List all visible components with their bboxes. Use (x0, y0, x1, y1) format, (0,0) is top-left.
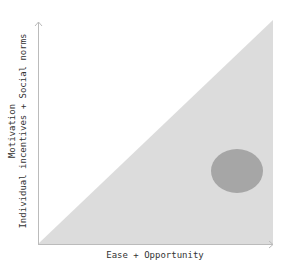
motivation-ease-diagram: Ease + Opportunity Motivation Individual… (0, 0, 288, 269)
y-axis-label: Motivation Individual incentives + Socia… (7, 21, 29, 241)
feasible-region-triangle (38, 20, 273, 244)
y-axis (35, 22, 42, 245)
y-axis-label-subtitle: Individual incentives + Social norms (18, 21, 29, 241)
position-marker (211, 149, 263, 193)
x-axis-label: Ease + Opportunity (38, 250, 272, 260)
diagram-canvas (0, 0, 288, 269)
y-axis-label-title: Motivation (7, 21, 18, 241)
y-axis-label-container: Motivation Individual incentives + Socia… (0, 0, 36, 269)
